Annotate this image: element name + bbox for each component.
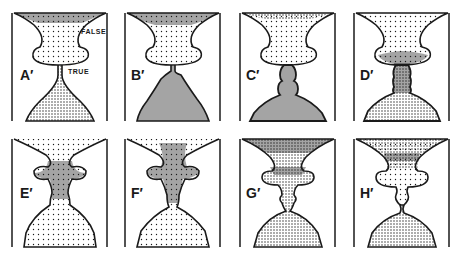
panel-d: D′ (354, 5, 450, 121)
panel-c: C′ (240, 5, 336, 121)
panel-d-drawing (354, 5, 450, 121)
panel-c-drawing (240, 5, 336, 121)
panel-f: F′ (125, 133, 221, 249)
panel-label-c: C′ (246, 67, 259, 83)
false-annotation: FALSE (81, 28, 106, 35)
panel-h: H′ (354, 133, 450, 249)
panel-a: FALSE TRUE A′ (12, 5, 108, 121)
panel-b: B′ (125, 5, 221, 121)
figure: FALSE TRUE A′ B′ C′ (0, 0, 459, 256)
panel-b-drawing (125, 5, 221, 121)
panel-label-b: B′ (131, 67, 144, 83)
panel-label-e: E′ (20, 185, 33, 201)
panel-g: G′ (240, 133, 336, 249)
panel-a-drawing (12, 5, 108, 121)
panel-label-g: G′ (246, 185, 260, 201)
panel-label-d: D′ (360, 67, 373, 83)
panel-label-f: F′ (131, 185, 143, 201)
panel-e: E′ (12, 133, 108, 249)
panel-label-h: H′ (360, 185, 373, 201)
true-annotation: TRUE (68, 68, 89, 75)
panel-label-a: A′ (20, 67, 33, 83)
